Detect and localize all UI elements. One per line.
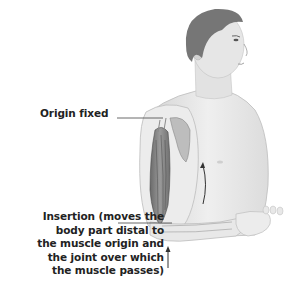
insertion-label: Insertion (moves the body part distal to… xyxy=(2,210,164,278)
insertion-label-line: body part distal to xyxy=(2,224,164,238)
insertion-label-line: the muscle passes) xyxy=(2,264,164,278)
insertion-label-line: Insertion (moves the xyxy=(2,210,164,224)
origin-label: Origin fixed xyxy=(40,107,108,121)
insertion-label-line: the joint over which xyxy=(2,251,164,265)
hand xyxy=(236,211,270,236)
insertion-label-line: the muscle origin and xyxy=(2,237,164,251)
